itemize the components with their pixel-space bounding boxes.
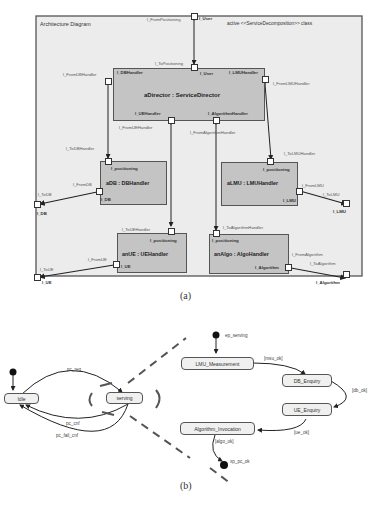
label-from-db: l_FromDB	[73, 183, 92, 187]
guard-ue-ok: [ue_ok]	[294, 431, 309, 436]
state-machine-diagram: Idle serving pc_req pc_cnf pc_fail_cnf e…	[0, 318, 378, 506]
port-ue-ue[interactable]	[113, 261, 120, 268]
port-label-external-lmu: l_LMU	[333, 210, 346, 214]
port-external-algorithm[interactable]	[343, 271, 350, 278]
state-algorithm-invocation[interactable]: Algorithm_Invocation	[180, 422, 255, 435]
caption-b: (b)	[180, 480, 192, 491]
transition-label-pc-cnf: pc_cnf	[66, 422, 80, 427]
port-label-external-db: l_DB	[37, 212, 47, 216]
port-algo-algorithm[interactable]	[285, 264, 292, 271]
guard-db-ok: [db_ok]	[352, 389, 367, 394]
port-label-ue-positioning: l_positioning	[150, 239, 177, 243]
label-to-algorithm: l_ToAlgorithm	[310, 262, 335, 266]
port-label-director-db-handler: l_DBHandler	[117, 71, 143, 75]
label-to-db: l_ToDB	[38, 193, 52, 197]
frame-title: Architecture Diagram	[40, 22, 91, 27]
label-to-algorithm-handler: l_ToAlgorithmHandler	[223, 226, 263, 230]
state-db-enquiry[interactable]: DB_Enquiry	[282, 374, 332, 387]
port-db-positioning[interactable]	[105, 158, 112, 165]
port-label-director-lmu-handler: l_LMUHandler	[229, 71, 258, 75]
label-from-db-handler: l_FromDBHandler	[63, 73, 97, 77]
port-label-lmu-positioning: l_positioning	[263, 168, 290, 172]
guard-algo-ok: [algo_ok]	[215, 440, 234, 445]
label-from-algorithm-handler: l_FromAlgorithmHandler	[190, 131, 235, 135]
capsule-name-director: aDirector : ServiceDirector	[144, 92, 220, 98]
exit-point-label: xp_pc_ok	[230, 460, 250, 465]
capsule-name-ue: anUE : UEHandler	[122, 252, 168, 257]
port-label-director-ue-handler: l_UEHandler	[135, 112, 161, 116]
state-lmu-measurement[interactable]: LMU_Measurement	[181, 357, 254, 370]
guard-msu-ok: [msu_ok]	[264, 357, 283, 362]
label-from-ue: l_FromUE	[88, 258, 107, 262]
port-director-db-handler[interactable]	[105, 78, 112, 85]
port-director-user[interactable]	[191, 64, 198, 71]
port-external-ue[interactable]	[34, 274, 41, 281]
port-db-db[interactable]	[96, 188, 103, 195]
architecture-diagram: Architecture Diagram active <<ServiceDec…	[0, 0, 378, 300]
port-label-algo-positioning: l_positioning	[212, 239, 239, 243]
caption-a: (a)	[180, 290, 191, 301]
label-to-lmu-handler: l_ToLMUHandler	[284, 152, 315, 156]
port-label-db-positioning: l_positioning	[111, 167, 138, 171]
port-director-lmu-handler[interactable]	[262, 76, 269, 83]
label-to-ue-handler: l_ToUEHandler	[122, 228, 150, 232]
port-lmu-positioning[interactable]	[267, 158, 274, 165]
state-idle[interactable]: Idle	[4, 393, 39, 404]
port-algo-positioning[interactable]	[213, 230, 220, 237]
frame-stereotype: active <<ServiceDecomposition>> class	[227, 22, 312, 27]
label-to-positioning: l_ToPositioning	[155, 62, 183, 66]
port-external-user[interactable]	[191, 13, 198, 20]
port-lmu-lmu[interactable]	[296, 188, 303, 195]
label-from-positioning: l_FromPositioning	[147, 18, 181, 22]
label-from-lmu: l_FromLMU	[302, 184, 324, 188]
entry-point-label: ep_serving	[225, 334, 247, 339]
port-director-algorithm-handler[interactable]	[213, 117, 220, 124]
capsule-name-algo: anAlgo : AlgoHandler	[214, 252, 269, 257]
transition-label-pc-fail-cnf: pc_fail_cnf	[56, 434, 78, 439]
state-serving[interactable]: serving	[106, 392, 143, 404]
capsule-name-lmu: aLMU : LMUHandler	[227, 181, 278, 186]
port-label-director-algorithm-handler: l_AlgorithmHandler	[208, 112, 248, 116]
port-label-db-db: l_DB	[101, 198, 111, 202]
label-to-db-handler: l_ToDBHandler	[66, 147, 94, 151]
label-from-lmu-handler: l_FromLMUHandler	[273, 82, 310, 86]
port-label-director-user: l_User	[200, 72, 213, 76]
capsule-name-db: aDB : DBHandler	[106, 181, 149, 186]
label-to-ue: l_ToUE	[40, 268, 54, 272]
state-ue-enquiry[interactable]: UE_Enquiry	[282, 403, 332, 416]
port-external-lmu[interactable]	[343, 200, 350, 207]
port-external-db[interactable]	[34, 201, 41, 208]
label-from-ue-handler: l_FromUEHandler	[119, 126, 153, 130]
port-ue-positioning[interactable]	[168, 228, 175, 235]
port-label-external-ue: l_UE	[42, 281, 52, 285]
label-from-algorithm: l_FromAlgorithm	[292, 253, 323, 257]
port-label-external-algorithm: l_Algorithm	[316, 281, 340, 285]
port-director-ue-handler[interactable]	[168, 117, 175, 124]
label-to-lmu: l_ToLMU	[323, 193, 340, 197]
port-label-user: l_User	[199, 17, 212, 21]
transition-label-pc-req: pc_req	[67, 368, 81, 373]
port-label-lmu-lmu: l_LMU	[283, 199, 296, 203]
port-label-algo-algorithm: l_Algorithm	[255, 266, 279, 270]
port-label-ue-ue: l_UE	[121, 265, 131, 269]
